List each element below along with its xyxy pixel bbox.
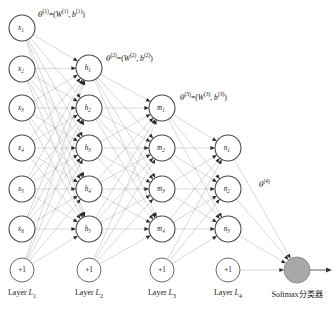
arrowhead-x3-to-h3 bbox=[73, 137, 78, 141]
edge-L1-bias-to-h5 bbox=[32, 236, 78, 264]
theta-label-theta3: θ(3)=(W(3), b(3)) bbox=[180, 91, 227, 102]
node-label-L3-bias: +1 bbox=[158, 266, 166, 274]
node-h1: h1 bbox=[76, 55, 102, 81]
softmax-output-arrowhead bbox=[326, 268, 332, 273]
node-label-L2-bias: +1 bbox=[85, 266, 93, 274]
arrowhead-x2-to-h1 bbox=[71, 66, 76, 70]
arrowhead-h4-to-m2 bbox=[146, 154, 151, 158]
theta-label-theta1: θ(1)=(W(1), b(1)) bbox=[38, 8, 85, 19]
arrowhead-m4-to-n3 bbox=[210, 227, 215, 231]
node-h4: h4 bbox=[76, 176, 102, 202]
neural-network-diagram: x1x2x3x4x5x6+1h1h2h3h4h5+1m1m2m3m4+1n1n2… bbox=[0, 0, 336, 310]
arrowhead-x4-to-h3 bbox=[71, 146, 76, 150]
arrowhead-m3-to-n3 bbox=[212, 218, 217, 222]
arrowheads-group bbox=[71, 57, 290, 272]
arrowhead-L3-bias-to-n2 bbox=[215, 199, 219, 204]
node-L3-bias: +1 bbox=[150, 258, 174, 282]
node-x4: x4 bbox=[9, 135, 35, 161]
theta-label-theta2: θ(2)=(W(2), b(2)) bbox=[106, 52, 153, 63]
edge-h1-to-m1 bbox=[100, 74, 150, 102]
arrowhead-m1-to-n1 bbox=[212, 137, 217, 141]
softmax-caption: Softmax分类器 bbox=[271, 288, 322, 299]
node-h3: h3 bbox=[76, 135, 102, 161]
node-n2: n2 bbox=[215, 176, 241, 202]
arrowhead-h3-to-m2 bbox=[144, 146, 149, 150]
node-m4: m4 bbox=[149, 216, 175, 242]
node-x3: x3 bbox=[9, 95, 35, 121]
arrowhead-x4-to-h4 bbox=[73, 178, 78, 182]
arrowhead-x6-to-h4 bbox=[73, 196, 78, 200]
edge-x3-to-h1 bbox=[33, 75, 78, 102]
layer-caption-L3: Layer L3 bbox=[148, 288, 176, 299]
arrowhead-h3-to-m1 bbox=[146, 114, 151, 118]
arrowhead-x6-to-h5 bbox=[71, 227, 76, 231]
arrowhead-L3-bias-to-n3 bbox=[212, 236, 217, 240]
edge-L3-bias-to-n1 bbox=[168, 159, 222, 259]
arrowhead-h1-to-m1 bbox=[146, 98, 151, 102]
node-L2-bias: +1 bbox=[77, 258, 101, 282]
theta-label-theta4: θ(4) bbox=[259, 178, 270, 189]
node-label-L4-bias: +1 bbox=[224, 266, 232, 274]
arrowhead-L2-bias-to-m4 bbox=[146, 235, 151, 239]
arrowhead-n3-to-softmax bbox=[281, 259, 286, 263]
node-h5: h5 bbox=[76, 216, 102, 242]
edge-L3-bias-to-n3 bbox=[172, 236, 217, 264]
arrowhead-m3-to-n1 bbox=[212, 155, 217, 159]
edge-n3-to-softmax bbox=[239, 236, 286, 264]
arrowhead-x5-to-h3 bbox=[73, 155, 78, 159]
edge-n1-to-softmax bbox=[234, 159, 290, 258]
arrowhead-x4-to-h2 bbox=[73, 115, 78, 119]
network-graph-canvas: x1x2x3x4x5x6+1h1h2h3h4h5+1m1m2m3m4+1n1n2… bbox=[0, 0, 336, 310]
arrowhead-x2-to-h2 bbox=[73, 98, 78, 102]
node-m2: m2 bbox=[149, 135, 175, 161]
arrowhead-L1-bias-to-h5 bbox=[73, 236, 78, 240]
arrowhead-h3-to-m3 bbox=[146, 179, 151, 183]
edge-L1-bias-to-h3 bbox=[28, 159, 83, 259]
layer-caption-L4: Layer L4 bbox=[214, 288, 242, 299]
arrowhead-m3-to-n2 bbox=[210, 187, 215, 191]
node-label-L1-bias: +1 bbox=[18, 266, 26, 274]
arrowhead-m4-to-n2 bbox=[212, 196, 217, 200]
node-x5: x5 bbox=[9, 176, 35, 202]
arrowhead-m2-to-n2 bbox=[212, 178, 217, 182]
arrowhead-h4-to-m3 bbox=[144, 187, 149, 191]
edge-x2-to-h2 bbox=[33, 76, 78, 102]
arrowhead-h5-to-m4 bbox=[144, 227, 149, 231]
output-node-group bbox=[284, 257, 332, 283]
edge-L2-bias-to-m2 bbox=[95, 159, 155, 260]
node-L1-bias: +1 bbox=[10, 258, 34, 282]
layer-caption-L2: Layer L2 bbox=[75, 288, 103, 299]
node-x2: x2 bbox=[9, 56, 35, 82]
edge-h1-to-m3 bbox=[96, 79, 156, 178]
node-m1: m1 bbox=[149, 95, 175, 121]
arrowhead-m2-to-n1 bbox=[210, 146, 215, 150]
node-h2: h2 bbox=[76, 95, 102, 121]
node-L4-bias: +1 bbox=[216, 258, 240, 282]
node-x6: x6 bbox=[9, 216, 35, 242]
arrowhead-m1-to-n2 bbox=[215, 174, 219, 179]
node-x1: x1 bbox=[9, 15, 35, 41]
node-n3: n3 bbox=[215, 216, 241, 242]
layer-caption-L1: Layer L1 bbox=[8, 288, 36, 299]
arrowhead-x5-to-h5 bbox=[73, 218, 78, 222]
node-m3: m3 bbox=[149, 176, 175, 202]
arrowhead-h2-to-m1 bbox=[144, 106, 149, 110]
softmax-output-node bbox=[284, 257, 310, 283]
arrowhead-x3-to-h1 bbox=[73, 75, 78, 79]
arrowhead-L4-bias-to-softmax bbox=[279, 268, 284, 272]
edge-n2-to-softmax bbox=[236, 199, 288, 260]
arrowhead-L1-bias-to-h4 bbox=[76, 199, 80, 204]
arrowhead-x1-to-h1 bbox=[73, 57, 78, 61]
node-n1: n1 bbox=[215, 135, 241, 161]
arrowhead-h4-to-m4 bbox=[146, 219, 151, 223]
edge-m1-to-n1 bbox=[173, 115, 217, 142]
edge-x1-to-h1 bbox=[33, 35, 78, 62]
